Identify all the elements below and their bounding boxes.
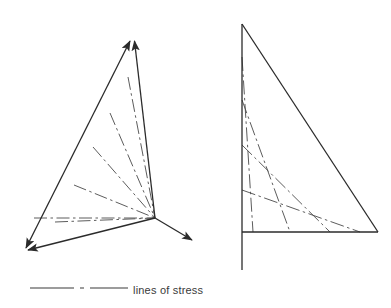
edge-apex-to-node [135, 41, 156, 218]
parallel-line-3 [242, 145, 330, 232]
right-stress-lines-group [242, 57, 360, 232]
edge-hypotenuse [242, 24, 378, 232]
left-stress-lines-group [34, 77, 155, 222]
edge-bottom-left-to-node [28, 218, 155, 250]
parallel-line-2 [242, 100, 290, 232]
right-outline-group [242, 24, 378, 270]
fan-line-3 [93, 147, 155, 218]
fan-line-4 [74, 185, 155, 218]
legend-group: lines of stress [30, 284, 204, 296]
parallel-line-1 [242, 57, 253, 232]
left-outline-group [26, 41, 192, 250]
legend-label: lines of stress [133, 284, 204, 296]
right-figure-group [242, 24, 378, 270]
stress-diagram-canvas: lines of stress [0, 0, 391, 308]
edge-apex-to-bottom-left [26, 41, 130, 248]
edge-node-to-right-tip [155, 218, 192, 240]
parallel-line-4 [242, 190, 360, 232]
left-figure-group [26, 41, 192, 250]
